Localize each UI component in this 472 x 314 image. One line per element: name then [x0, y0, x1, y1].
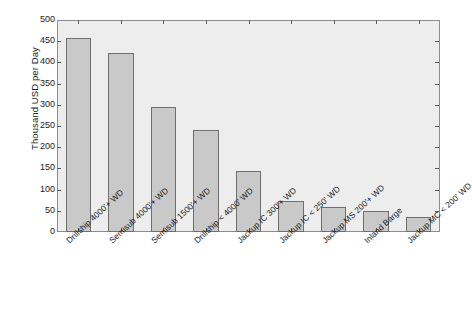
x-tick-bottom — [291, 228, 292, 232]
x-tick-bottom — [334, 228, 335, 232]
bar — [66, 38, 92, 232]
bar — [193, 130, 219, 232]
y-tick-label: 350 — [15, 78, 55, 88]
x-tick-top — [419, 20, 420, 24]
bar-chart: Thousand USD per Day 0501001502002503003… — [0, 0, 472, 314]
x-tick-bottom — [376, 228, 377, 232]
x-tick-top — [249, 20, 250, 24]
x-tick-bottom — [419, 228, 420, 232]
x-tick-bottom — [121, 228, 122, 232]
y-tick-label: 0 — [15, 226, 55, 236]
y-tick-label: 100 — [15, 184, 55, 194]
x-tick-top — [376, 20, 377, 24]
bar — [151, 107, 177, 233]
x-tick-top — [163, 20, 164, 24]
y-tick-label: 450 — [15, 35, 55, 45]
x-tick-bottom — [249, 228, 250, 232]
x-tick-bottom — [163, 228, 164, 232]
y-tick-label: 300 — [15, 99, 55, 109]
bars-layer — [57, 20, 440, 232]
x-tick-top — [334, 20, 335, 24]
y-tick-label: 200 — [15, 141, 55, 151]
x-tick-top — [121, 20, 122, 24]
y-tick-label: 250 — [15, 120, 55, 130]
bar — [108, 53, 134, 232]
x-tick-top — [78, 20, 79, 24]
y-tick-label: 50 — [15, 205, 55, 215]
y-tick-label: 500 — [15, 14, 55, 24]
bar — [236, 171, 262, 232]
x-tick-bottom — [206, 228, 207, 232]
x-tick-bottom — [78, 228, 79, 232]
y-tick-label: 400 — [15, 56, 55, 66]
x-tick-top — [206, 20, 207, 24]
y-tick-label: 150 — [15, 162, 55, 172]
x-tick-top — [291, 20, 292, 24]
